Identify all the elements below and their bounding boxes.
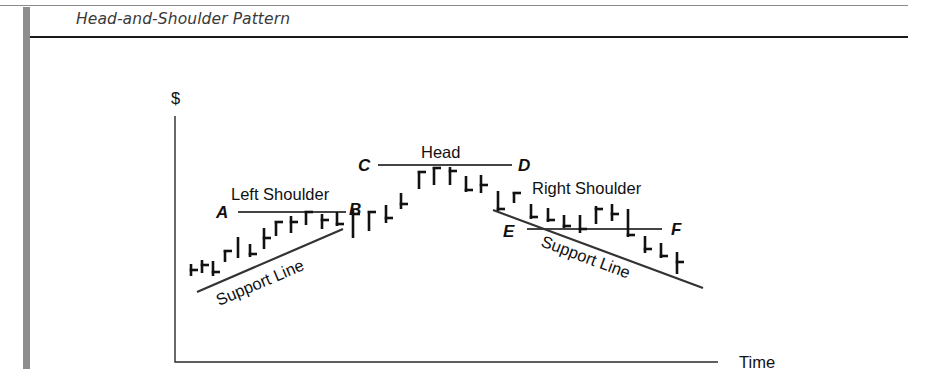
- point-c-label: C: [358, 156, 371, 175]
- x-axis-label: Time: [739, 353, 775, 371]
- price-bar: [563, 215, 571, 228]
- price-bar: [249, 244, 257, 257]
- price-bar: [224, 250, 232, 262]
- price-bar: [595, 206, 603, 224]
- price-bar: [290, 216, 298, 233]
- point-d-label: D: [518, 156, 530, 175]
- support-line-left-label: Support Line: [213, 256, 306, 309]
- price-bar: [644, 236, 652, 253]
- price-bar: [212, 261, 220, 276]
- point-a-label: A: [215, 203, 228, 222]
- price-bar: [676, 252, 684, 274]
- price-bar: [385, 205, 393, 223]
- price-bar: [305, 211, 313, 225]
- price-bar: [497, 191, 505, 211]
- price-bar: [321, 214, 329, 229]
- price-bar: [480, 175, 488, 193]
- head-label: Head: [421, 143, 460, 161]
- price-bar: [263, 228, 271, 249]
- price-bar: [368, 211, 376, 231]
- price-bar: [433, 167, 441, 185]
- point-b-label: B: [349, 200, 361, 219]
- head-and-shoulder-chart: $ Time Left Shoulder Head Right Shoulder…: [0, 0, 925, 391]
- price-bar: [418, 171, 426, 189]
- price-bar: [611, 204, 619, 221]
- annotations: Left Shoulder Head Right Shoulder Suppor…: [213, 143, 682, 309]
- point-e-label: E: [503, 222, 515, 241]
- price-bar: [449, 167, 457, 185]
- price-bar: [627, 209, 635, 237]
- price-bar: [660, 243, 668, 258]
- price-bar: [465, 176, 473, 192]
- point-f-label: F: [671, 220, 682, 239]
- axes: $ Time: [171, 89, 775, 371]
- price-bar: [579, 215, 587, 233]
- price-bar: [513, 192, 521, 203]
- price-bar: [400, 193, 408, 209]
- y-axis-label: $: [171, 89, 180, 107]
- price-bar: [336, 212, 344, 226]
- price-bar: [547, 208, 555, 222]
- price-bar: [530, 204, 538, 219]
- price-bar: [190, 264, 198, 276]
- price-bar: [275, 221, 283, 236]
- right-shoulder-label: Right Shoulder: [532, 179, 642, 197]
- price-bar: [201, 260, 209, 273]
- left-shoulder-label: Left Shoulder: [231, 185, 330, 203]
